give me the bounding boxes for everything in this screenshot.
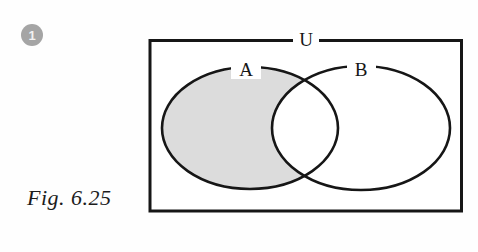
figure-caption: Fig. 6.25 bbox=[27, 185, 112, 211]
set-b-label: B bbox=[355, 59, 368, 80]
venn-diagram: U A B bbox=[0, 0, 478, 252]
universal-set-label: U bbox=[299, 29, 313, 50]
set-a-label: A bbox=[239, 59, 253, 80]
figure-container: 1 U A B Fig. 6.25 bbox=[0, 0, 478, 252]
